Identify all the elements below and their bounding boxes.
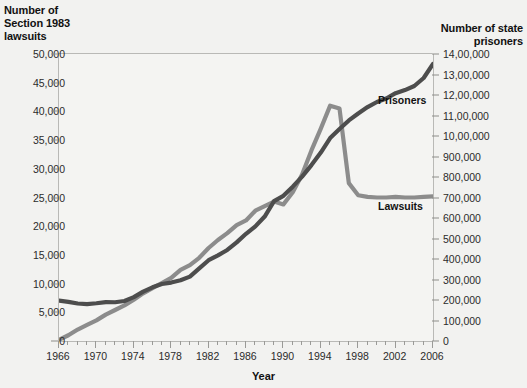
x-axis-minor-tick: [301, 341, 302, 345]
y-axis-left-tick-label: 30,000: [33, 163, 65, 175]
x-axis-tick-label: 1998: [346, 350, 369, 362]
x-axis-tick-label: 1966: [46, 350, 69, 362]
x-axis-tick-label: 1974: [121, 350, 144, 362]
series-line-prisoners: [59, 64, 433, 304]
y-axis-left-tick-mark: [51, 254, 58, 255]
y-axis-right-tick-label: 400,000: [443, 253, 481, 265]
x-axis-major-tick: [58, 341, 59, 348]
y-axis-left-tick-mark: [51, 54, 58, 55]
y-axis-left-tick-mark: [51, 197, 58, 198]
x-axis-major-tick: [357, 341, 358, 348]
y-axis-left-tick-label: 40,000: [33, 105, 65, 117]
y-axis-right-tick-mark: [432, 259, 439, 260]
y-axis-right-tick-label: 900,000: [443, 151, 481, 163]
x-axis-tick-label: 1994: [308, 350, 331, 362]
y-axis-right-tick-label: 200,000: [443, 294, 481, 306]
series-label-lawsuits: Lawsuits: [378, 200, 423, 212]
x-axis-minor-tick: [142, 341, 143, 345]
y-axis-right-tick-mark: [432, 320, 439, 321]
y-axis-right-tick-mark: [432, 54, 439, 55]
y-axis-right-tick-mark: [432, 115, 439, 116]
y-axis-left-tick-label: 0: [59, 335, 65, 347]
y-axis-left-tick-label: 25,000: [33, 192, 65, 204]
y-axis-right-tick-label: 500,000: [443, 233, 481, 245]
series-label-prisoners: Prisoners: [378, 94, 426, 106]
x-axis-tick-label: 2006: [420, 350, 443, 362]
x-axis-minor-tick: [152, 341, 153, 345]
left-axis-title-line2: Section 1983: [4, 17, 70, 29]
x-axis-minor-tick: [189, 341, 190, 345]
y-axis-left-tick-mark: [51, 226, 58, 227]
y-axis-right-tick-mark: [432, 95, 439, 96]
x-axis-minor-tick: [123, 341, 124, 345]
y-axis-right-tick-label: 300,000: [443, 274, 481, 286]
x-axis-minor-tick: [385, 341, 386, 345]
x-axis-major-tick: [395, 341, 396, 348]
x-axis-minor-tick: [367, 341, 368, 345]
y-axis-left-tick-mark: [51, 341, 58, 342]
y-axis-left-tick-label: 15,000: [33, 249, 65, 261]
x-axis-minor-tick: [329, 341, 330, 345]
x-axis-minor-tick: [236, 341, 237, 345]
x-axis-minor-tick: [339, 341, 340, 345]
y-axis-right-tick-mark: [432, 74, 439, 75]
x-axis-title: Year: [0, 370, 527, 382]
y-axis-right-tick-mark: [432, 177, 439, 178]
x-axis-minor-tick: [310, 341, 311, 345]
y-axis-left-tick-mark: [51, 168, 58, 169]
series-line-lawsuits: [59, 106, 433, 340]
y-axis-left-tick-label: 50,000: [33, 48, 65, 60]
y-axis-right-tick-mark: [432, 136, 439, 137]
right-axis-title-line2: prisoners: [474, 35, 523, 47]
y-axis-right-tick-label: 600,000: [443, 212, 481, 224]
x-axis-minor-tick: [86, 341, 87, 345]
x-axis-minor-tick: [413, 341, 414, 345]
y-axis-left-tick-mark: [51, 82, 58, 83]
x-axis-tick-label: 1970: [84, 350, 107, 362]
x-axis-minor-tick: [404, 341, 405, 345]
x-axis-minor-tick: [423, 341, 424, 345]
x-axis-tick-label: 2002: [383, 350, 406, 362]
y-axis-left-tick-label: 10,000: [33, 278, 65, 290]
y-axis-right-tick-mark: [432, 197, 439, 198]
chart-figure: Number ofSection 1983lawsuits Number of …: [0, 0, 527, 388]
x-axis-minor-tick: [273, 341, 274, 345]
y-axis-left-tick-mark: [51, 312, 58, 313]
x-axis-major-tick: [245, 341, 246, 348]
y-axis-right-tick-label: 10,00,000: [443, 130, 490, 142]
y-axis-left-tick-mark: [51, 283, 58, 284]
right-axis-title-line1: Number of state: [441, 22, 523, 34]
y-axis-left-tick-mark: [51, 140, 58, 141]
y-axis-right-tick-mark: [432, 341, 439, 342]
x-axis-tick-label: 1982: [196, 350, 219, 362]
x-axis-major-tick: [208, 341, 209, 348]
x-axis-tick-label: 1990: [271, 350, 294, 362]
x-axis-minor-tick: [226, 341, 227, 345]
x-axis-minor-tick: [180, 341, 181, 345]
y-axis-left-tick-label: 45,000: [33, 77, 65, 89]
x-axis-major-tick: [170, 341, 171, 348]
x-axis-major-tick: [133, 341, 134, 348]
y-axis-right-tick-label: 12,00,000: [443, 89, 490, 101]
y-axis-right-tick-mark: [432, 279, 439, 280]
x-axis-major-tick: [320, 341, 321, 348]
x-axis-minor-tick: [376, 341, 377, 345]
y-axis-right-tick-mark: [432, 156, 439, 157]
y-axis-right-tick-mark: [432, 238, 439, 239]
y-axis-right-tick-mark: [432, 218, 439, 219]
series-svg: [59, 54, 433, 341]
y-axis-right-tick-label: 0: [443, 335, 449, 347]
left-axis-title-line3: lawsuits: [4, 30, 47, 42]
left-axis-title: Number ofSection 1983lawsuits: [4, 4, 70, 43]
x-axis-minor-tick: [348, 341, 349, 345]
y-axis-right-tick-label: 11,00,000: [443, 110, 489, 122]
right-axis-title: Number of stateprisoners: [441, 22, 523, 48]
x-axis-minor-tick: [264, 341, 265, 345]
y-axis-right-tick-label: 14,00,000: [443, 48, 490, 60]
x-axis-minor-tick: [198, 341, 199, 345]
x-axis-minor-tick: [105, 341, 106, 345]
x-axis-minor-tick: [254, 341, 255, 345]
y-axis-right-tick-label: 100,000: [443, 315, 481, 327]
y-axis-left-tick-label: 35,000: [33, 134, 65, 146]
y-axis-left-tick-label: 20,000: [33, 220, 65, 232]
